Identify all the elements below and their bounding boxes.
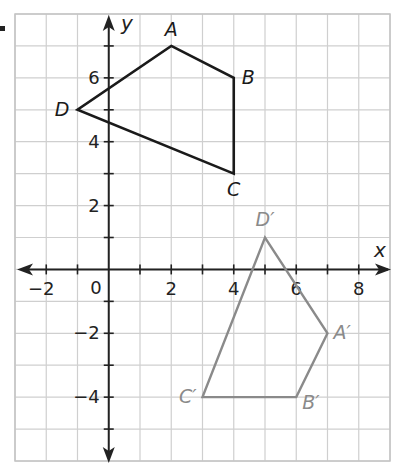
x-tick-label: −2	[28, 278, 55, 299]
image-vertex-label: D′	[256, 208, 276, 230]
y-tick-label: 6	[88, 67, 99, 88]
image-vertex-label: C′	[179, 385, 197, 407]
original-vertex-label: A	[163, 18, 178, 40]
y-tick-label: 2	[88, 195, 99, 216]
x-axis-label: x	[373, 238, 386, 262]
original-vertex-label: C	[227, 178, 241, 200]
x-tick-label: 8	[353, 278, 364, 299]
image-vertex-label: B′	[302, 391, 320, 413]
x-tick-label: 4	[228, 278, 239, 299]
original-vertex-label: D	[55, 98, 70, 120]
coordinate-plane: −22468642−2−4 ABCD A′B′C′D′ x y 0	[0, 0, 398, 472]
y-tick-label: −2	[73, 322, 100, 343]
y-axis-label: y	[120, 11, 134, 35]
y-tick-label: −4	[73, 386, 100, 407]
vertex-labels-original: ABCD	[55, 18, 255, 200]
origin-label: 0	[90, 277, 101, 298]
y-tick-label: 4	[88, 131, 99, 152]
image-vertex-label: A′	[332, 321, 352, 343]
original-vertex-label: B	[242, 66, 255, 88]
x-tick-label: 2	[166, 278, 177, 299]
x-tick-label: 6	[291, 278, 302, 299]
